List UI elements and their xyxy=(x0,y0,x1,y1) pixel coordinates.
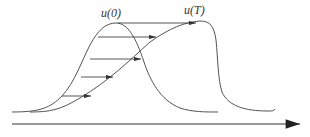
label-initial-profile: u(0) xyxy=(101,6,121,21)
final-curve xyxy=(30,21,275,112)
label-final-profile: u(T) xyxy=(184,3,205,18)
transport-diagram xyxy=(0,0,310,137)
initial-curve xyxy=(12,23,218,112)
